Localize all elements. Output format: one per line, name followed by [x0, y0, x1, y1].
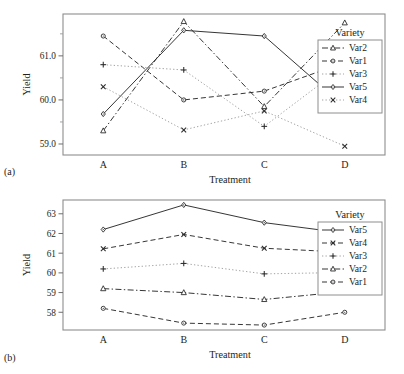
x-tick-label: B: [180, 159, 187, 170]
y-tick-label: 59.0: [40, 139, 57, 149]
panel-tag-b: (b): [4, 352, 16, 363]
legend-title: Variety: [335, 27, 365, 38]
y-tick-label: 63: [47, 209, 57, 219]
y-axis-label: Yield: [21, 73, 32, 95]
y-tick-label: 61: [47, 249, 57, 259]
y-tick-label: 62: [47, 229, 57, 239]
line-chart-b: 585960616263ABCDTreatmentYieldVarietyVar…: [0, 184, 404, 374]
legend-label: Var4: [349, 94, 367, 105]
legend-label: Var3: [349, 68, 367, 79]
y-axis-label: Yield: [21, 254, 32, 276]
x-tick-label: A: [100, 159, 108, 170]
y-tick-label: 58: [47, 308, 57, 318]
legend-label: Var4: [349, 237, 367, 248]
panel-tag-a: (a): [4, 166, 15, 177]
legend-label: Var1: [349, 55, 367, 66]
marker-circle: [101, 306, 105, 310]
y-tick-label: 61.0: [40, 51, 57, 61]
chart-panel-b: 585960616263ABCDTreatmentYieldVarietyVar…: [0, 184, 404, 374]
legend-label: Var5: [349, 224, 367, 235]
x-tick-label: B: [180, 334, 187, 345]
marker-circle: [262, 89, 266, 93]
y-tick-label: 60.0: [40, 95, 57, 105]
x-tick-label: A: [100, 334, 108, 345]
legend-label: Var3: [349, 250, 367, 261]
x-axis-label: Treatment: [209, 349, 251, 360]
x-tick-label: D: [341, 334, 348, 345]
marker-circle: [182, 321, 186, 325]
marker-circle: [182, 98, 186, 102]
marker-circle: [262, 323, 266, 327]
line-chart-a: 59.060.061.0ABCDTreatmentYieldVarietyVar…: [0, 0, 404, 190]
legend-label: Var2: [349, 263, 367, 274]
legend-label: Var1: [349, 276, 367, 287]
marker-circle: [101, 34, 105, 38]
y-tick-label: 60: [47, 268, 57, 278]
x-tick-label: D: [341, 159, 348, 170]
legend-title: Variety: [335, 209, 365, 220]
marker-circle: [343, 310, 347, 314]
legend-label: Var2: [349, 42, 367, 53]
marker-circle: [331, 59, 335, 63]
marker-circle: [331, 280, 335, 284]
x-tick-label: C: [261, 334, 268, 345]
legend-label: Var5: [349, 81, 367, 92]
x-tick-label: C: [261, 159, 268, 170]
chart-panel-a: 59.060.061.0ABCDTreatmentYieldVarietyVar…: [0, 0, 404, 190]
y-tick-label: 59: [47, 288, 57, 298]
